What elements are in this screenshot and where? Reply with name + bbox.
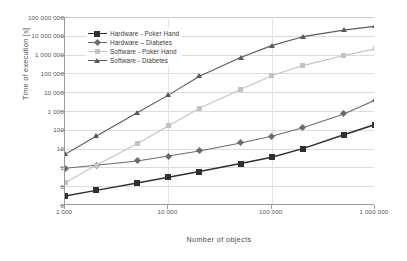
data-point-marker: [238, 87, 243, 92]
data-point-marker: [166, 123, 171, 128]
x-axis-tick-mark: [167, 205, 168, 209]
series-line: [65, 100, 374, 168]
data-point-marker: [196, 73, 202, 78]
data-point-marker: [372, 23, 374, 28]
y-axis-title: Time of execution [s]: [21, 28, 30, 100]
data-point-marker: [93, 133, 99, 138]
legend-item[interactable]: Hardware - Poker Hand: [88, 29, 179, 38]
x-axis-tick-mark: [374, 205, 375, 209]
legend-item[interactable]: Software - Poker Hand: [88, 47, 179, 56]
data-point-marker: [300, 146, 306, 152]
data-point-marker: [93, 187, 99, 193]
data-point-marker: [372, 122, 374, 128]
data-point-marker: [300, 34, 306, 39]
x-axis-tick-label: 1 000: [56, 208, 72, 216]
data-point-marker: [65, 151, 68, 156]
data-point-marker: [65, 193, 68, 199]
series-line: [65, 49, 374, 183]
data-point-marker: [238, 55, 244, 60]
x-axis-tick-mark: [271, 205, 272, 209]
legend-swatch-icon: [88, 29, 107, 38]
legend-swatch-icon: [88, 38, 107, 47]
legend-label: Hardware – Diabetes: [110, 39, 172, 46]
chart-legend: Hardware - Poker HandHardware – Diabetes…: [86, 27, 182, 67]
legend-item[interactable]: Software - Diabetes: [88, 56, 179, 65]
legend-label: Hardware - Poker Hand: [110, 30, 179, 37]
data-point-marker: [165, 92, 171, 97]
x-axis-title: Number of objects: [64, 235, 374, 244]
data-point-marker: [269, 43, 275, 48]
legend-swatch-icon: [88, 47, 107, 56]
data-point-marker: [94, 163, 99, 168]
data-point-marker: [134, 110, 140, 115]
data-point-marker: [197, 106, 202, 111]
data-point-marker: [165, 174, 171, 180]
data-point-marker: [134, 180, 140, 186]
data-point-marker: [341, 27, 347, 32]
data-point-marker: [300, 63, 305, 68]
data-point-marker: [373, 46, 375, 51]
data-point-marker: [269, 73, 274, 78]
legend-swatch-icon: [88, 56, 107, 65]
data-point-marker: [341, 132, 347, 138]
legend-label: Software - Poker Hand: [110, 48, 177, 55]
data-point-marker: [196, 169, 202, 175]
legend-item[interactable]: Hardware – Diabetes: [88, 38, 179, 47]
x-axis-tick-label: 1 000 000: [360, 208, 389, 216]
series-line: [65, 125, 374, 196]
legend-label: Software - Diabetes: [110, 57, 168, 64]
data-point-marker: [135, 141, 140, 146]
x-axis-tick-label: 100 000: [259, 208, 282, 216]
data-point-marker: [65, 180, 68, 185]
data-point-marker: [341, 53, 346, 58]
x-axis-tick-mark: [64, 205, 65, 209]
y-axis-tick-label: 100 000 000: [28, 14, 64, 21]
chart-figure: 100 000 00010 000 0001 000 000100 00010 …: [0, 0, 407, 261]
x-axis-tick-label: 10 000: [157, 208, 177, 216]
data-point-marker: [269, 154, 275, 160]
data-point-marker: [238, 161, 244, 167]
